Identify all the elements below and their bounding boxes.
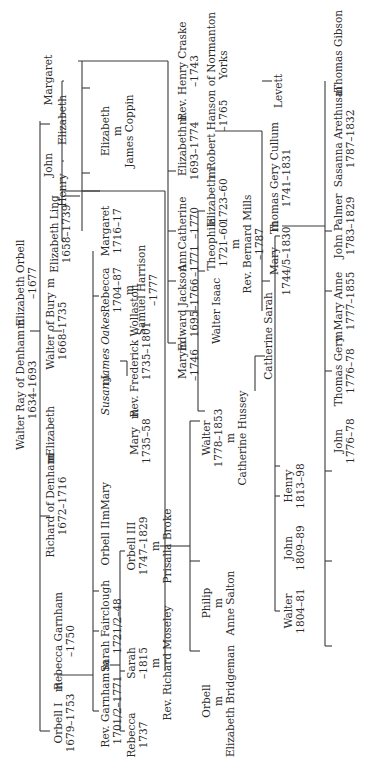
person-name: Sarah xyxy=(125,606,137,721)
person-dates: 1778–1853 xyxy=(212,390,224,485)
person-walter-1778: Walter 1778–1853 m Catherine Hussey xyxy=(200,390,248,485)
person-thomas-gery-cullum: Thomas Gery Cullum 1741–1831 xyxy=(268,122,292,234)
person-elizabeth-coppin: Elizabeth m James Coppin xyxy=(99,94,135,167)
person-dates: –1743 xyxy=(188,21,200,120)
person-dates: –1815 xyxy=(137,606,149,721)
person-orbell-ii: Orbell II xyxy=(99,521,111,566)
person-name: Orbell I xyxy=(52,694,64,753)
person-walter-of-bury: Walter of Bury 1668–1735 xyxy=(44,292,68,369)
person-elizabeth-wife-richard: Elizabeth xyxy=(44,406,56,456)
person-rev-frederick-wollaston: Rev. Frederick Wollaston 1735–1801 xyxy=(128,285,152,418)
person-name: John xyxy=(332,418,344,463)
person-dates: 1634–1693 xyxy=(26,330,38,450)
spouse-dates: –1787 xyxy=(253,195,265,294)
person-dates: 1777–1855 xyxy=(344,272,356,331)
person-dates: 1658–1739 xyxy=(60,195,72,272)
person-dates: –1771 xyxy=(188,245,200,277)
person-name: Henry xyxy=(282,463,294,508)
person-orbell-i: Orbell I 1679–1753 xyxy=(52,694,76,753)
person-dates: 1776–78 xyxy=(344,336,356,407)
person-thomas-gery-1776: Thomas Gery 1776–78 xyxy=(332,336,356,407)
person-elizabeth-ling: Elizabeth Ling 1658–1739 xyxy=(48,195,72,272)
person-levett: Levett xyxy=(272,74,284,108)
person-dates: 1744/5–1830 xyxy=(280,227,292,296)
person-name: Rev. Garnham xyxy=(99,673,111,748)
person-elizabeth-1693: Elizabeth 1693–1774 xyxy=(176,122,200,181)
person-dates: 1735–1801 xyxy=(140,285,152,418)
person-elizabeth-orbell: Elizabeth Orbell –1677 xyxy=(14,240,38,327)
person-name: Edward Jackson xyxy=(176,265,188,351)
person-dates: 1747–1829 xyxy=(137,508,149,583)
person-orbell-bridgeman: Orbell m Elizabeth Bridgeman xyxy=(200,645,236,757)
person-catherine-sarah: Catherine Sarah xyxy=(262,292,274,380)
person-john-palmer: John Palmer 1783–1829 xyxy=(332,194,356,259)
person-susan: Susan xyxy=(99,383,111,415)
person-name: Mary xyxy=(128,418,140,463)
person-edward-jackson: Edward Jackson 1695–1766 xyxy=(176,265,200,351)
person-name: Margaret xyxy=(99,206,111,256)
person-elizabeth-1723: Elizabeth 1723–60 xyxy=(205,176,229,226)
person-name: Rebecca xyxy=(99,245,111,335)
person-place: Yorks xyxy=(217,50,229,79)
person-name: Catherine xyxy=(176,197,188,250)
person-name: Susan xyxy=(99,383,111,415)
person-dates: 1787–1832 xyxy=(344,91,356,187)
person-philip: Philip m Anne Salton xyxy=(200,571,236,636)
person-dates: –1770 xyxy=(188,197,200,250)
person-name: Walter of Bury xyxy=(44,292,56,369)
person-dates: –1765 xyxy=(217,100,229,132)
person-name: Ann xyxy=(176,245,188,277)
person-dates: 1804–81 xyxy=(294,588,306,633)
spouse-name: Rev. Richard Moseley xyxy=(161,606,173,721)
person-dates: 1783–1829 xyxy=(344,194,356,259)
marriage-marker: m xyxy=(332,331,344,341)
person-ann: Ann –1771 xyxy=(176,245,200,277)
person-margaret-1716: Margaret 1716–17 xyxy=(99,206,123,256)
person-sarah-fairclough: Sarah Fairclough 1721/2–48 xyxy=(99,580,123,672)
person-orbell-iii: Orbell III 1747–1829 m Prisalla Broke xyxy=(125,508,173,583)
person-name: Mary xyxy=(268,227,280,296)
person-dates: 1695–1766 xyxy=(188,265,200,351)
person-rev-garnham: Rev. Garnham 1701/2–1771 xyxy=(99,673,123,748)
person-walter-1804: Walter 1804–81 xyxy=(282,588,306,633)
marriage-marker: m xyxy=(224,390,236,485)
person-sasanna-arethusa: Sasanna Arethusa 1787–1832 xyxy=(332,91,356,187)
person-name: Elizabeth xyxy=(205,176,217,226)
person-mary-1744: Mary 1744/5–1830 xyxy=(268,227,292,296)
person-name: Sasanna Arethusa xyxy=(332,91,344,187)
person-dates: 1809–89 xyxy=(294,525,306,570)
spouse-name: Prisalla Broke xyxy=(161,508,173,583)
person-dates: 1704–87 xyxy=(111,245,123,335)
person-place-and-dates: –1765 Yorks xyxy=(217,12,229,170)
person-name: Rev. Frederick Wollaston xyxy=(128,285,140,418)
person-dates: 1679–1753 xyxy=(64,694,76,753)
person-dates: 1723–60 xyxy=(217,176,229,226)
person-dates: –1677 xyxy=(26,240,38,327)
person-catherine-1770: Catherine –1770 xyxy=(176,197,200,250)
person-mary-1746: Mary –1746 xyxy=(176,349,200,381)
person-robert-hanson: Robert Hanson of Normanton –1765 Yorks xyxy=(205,12,229,170)
person-name: Orbell III xyxy=(125,508,137,583)
person-name: Thomas Gery Cullum xyxy=(268,122,280,234)
person-name: Robert Hanson of Normanton xyxy=(205,12,217,170)
person-henry: Henry xyxy=(56,173,68,206)
person-rebecca-garnham: Rebecca Garnham –1750 xyxy=(52,592,76,690)
person-name: Elizabeth Ling xyxy=(48,195,60,272)
person-name: Walter xyxy=(282,588,294,633)
marriage-marker: m xyxy=(44,278,56,288)
person-dates: 1776–78 xyxy=(344,418,356,463)
person-dates: –1746 xyxy=(188,349,200,381)
person-dates: 1741–1831 xyxy=(280,122,292,234)
person-john: John xyxy=(42,153,54,177)
marriage-marker: m xyxy=(229,195,241,294)
person-dates: 1735–58 xyxy=(140,418,152,463)
marriage-marker: m xyxy=(111,94,123,167)
spouse-name: Rev. Bernard Mills xyxy=(241,195,253,294)
person-mary-1735: Mary 1735–58 xyxy=(128,418,152,463)
person-john-1776: John 1776–78 xyxy=(332,418,356,463)
person-dates: –1750 xyxy=(64,592,76,690)
marriage-marker: m xyxy=(212,645,224,757)
person-margaret-sibling: Margaret xyxy=(42,55,54,105)
marriage-marker: m xyxy=(212,571,224,636)
person-walter-ray: Walter Ray of Denham 1634–1693 xyxy=(14,330,38,450)
